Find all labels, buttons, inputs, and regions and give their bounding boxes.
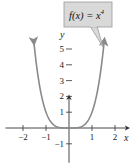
- axes: [6, 97, 128, 163]
- callout-pointer: [90, 26, 103, 47]
- x-tick-label: −2: [18, 132, 28, 142]
- x-tick-label: 2: [113, 132, 118, 142]
- y-tick-label: −1: [54, 139, 64, 149]
- y-tick-label: 1: [60, 107, 65, 117]
- y-tick-label: 4: [60, 60, 65, 70]
- x-axis-label: x: [123, 132, 129, 143]
- callout-exponent: 4: [101, 8, 105, 16]
- y-axis-label: y: [59, 29, 65, 40]
- y-tick-label: 2: [60, 91, 65, 101]
- callout: f(x) = x4: [64, 2, 112, 47]
- x-tick-label: −1: [41, 132, 51, 142]
- chart: −2−112−112345 f(x) = x4 y x: [0, 0, 138, 165]
- x-tick-label: 1: [90, 132, 95, 142]
- y-tick-label: 3: [60, 76, 65, 86]
- y-tick-label: 5: [60, 44, 65, 54]
- callout-label: f(x) = x4: [69, 8, 105, 22]
